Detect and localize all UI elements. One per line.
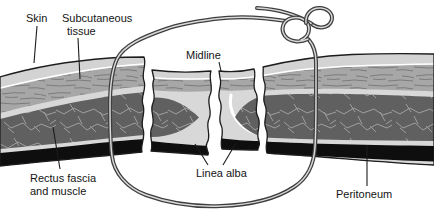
label-peritoneum: Peritoneum xyxy=(336,188,392,200)
label-skin: Skin xyxy=(26,12,47,24)
label-rectus-line2: and muscle xyxy=(30,185,86,197)
label-rectus-line1: Rectus fascia xyxy=(30,172,97,184)
label-subcutaneous-line2: tissue xyxy=(67,25,96,37)
label-midline: Midline xyxy=(186,49,221,61)
right-tissue-block xyxy=(260,50,434,170)
abdominal-wall-diagram: Skin Subcutaneous tissue Midline Rectus … xyxy=(0,0,434,217)
diagram-stage: Skin Subcutaneous tissue Midline Rectus … xyxy=(0,0,434,217)
label-subcutaneous-line1: Subcutaneous xyxy=(62,12,133,24)
label-linea-alba: Linea alba xyxy=(196,167,248,179)
